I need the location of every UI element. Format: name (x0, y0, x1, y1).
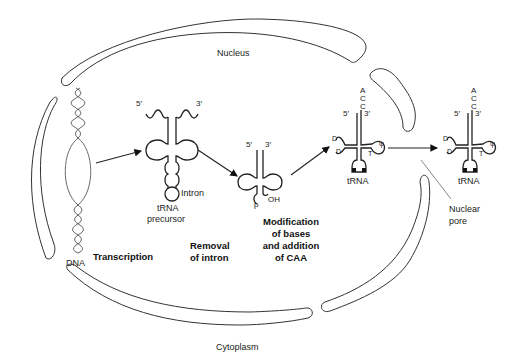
nucleus-trna-5prime: 5′ (343, 109, 349, 118)
arrow-removal (198, 150, 237, 176)
nucleus-trna-3prime: 3′ (364, 109, 370, 118)
precursor-3prime: 3′ (196, 99, 202, 108)
intron-label: Intron (181, 188, 204, 198)
envelope-segment-lower-right (321, 175, 429, 311)
nuclear-pore-label-2: pore (449, 216, 467, 226)
trna-processing-diagram: DNA 5′ 3′ Intron tRNA precursor 5′ 3′ p … (0, 0, 518, 362)
step-modification-3: and addition (263, 240, 320, 251)
step-removal-1: Removal (190, 240, 230, 251)
spliced-oh: OH (268, 195, 280, 204)
trna-cytoplasm (447, 110, 495, 172)
dna-label: DNA (66, 258, 85, 268)
step-removal-2: of intron (190, 252, 229, 263)
nucleus-trna-d1: D (332, 135, 337, 142)
nucleus-trna-psi: ψ (379, 140, 384, 148)
cytoplasm-trna-d1: D (443, 135, 448, 142)
trna-mature-nucleus (336, 110, 384, 172)
nucleus-trna-d2: D (336, 148, 341, 155)
cytoplasm-trna-t: T (479, 150, 484, 157)
trna-precursor-label-1: tRNA (157, 203, 179, 213)
envelope-segment-left (32, 97, 58, 259)
dna-helix (65, 88, 91, 253)
trna-precursor-label-2: precursor (147, 214, 185, 224)
nuclear-pore-label-1: Nuclear (449, 204, 480, 214)
cytoplasm-trna-3prime: 3′ (475, 109, 481, 118)
trna-nucleus-label: tRNA (347, 176, 369, 186)
nucleus-trna-t: T (368, 150, 373, 157)
trna-cytoplasm-label: tRNA (458, 176, 480, 186)
step-modification-4: of CAA (275, 252, 307, 263)
cytoplasm-trna-psi: ψ (490, 140, 495, 148)
step-modification-2: of bases (272, 228, 311, 239)
spliced-5prime: 5′ (246, 140, 252, 149)
envelope-segment-bottom (67, 264, 313, 325)
spliced-3prime: 3′ (265, 140, 271, 149)
precursor-5prime: 5′ (136, 99, 142, 108)
spliced-p: p (254, 200, 259, 209)
cytoplasm-label: Cytoplasm (216, 342, 259, 352)
step-transcription: Transcription (93, 251, 153, 262)
arrow-transcription (96, 151, 141, 163)
cytoplasm-trna-d2: D (447, 148, 452, 155)
arrow-modification (291, 147, 329, 175)
nucleus-label: Nucleus (217, 48, 250, 58)
cytoplasm-trna-5prime: 5′ (454, 109, 460, 118)
envelope-segment-top (61, 19, 366, 86)
envelope-segment-upper-right (370, 69, 415, 132)
step-modification-1: Modification (263, 216, 319, 227)
